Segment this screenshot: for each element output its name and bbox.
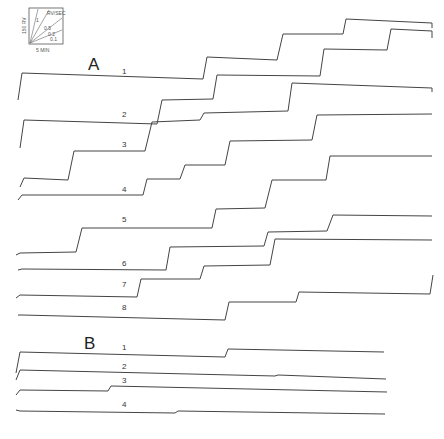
figure-canvas: 150 RV 5 MIN RV/SEC 1 0.5 0.2 0.1 A 1234… [0,0,444,439]
panel-a-trace-8 [18,275,433,320]
panel-b-label: B [84,334,95,353]
panel-a-label: A [88,55,100,74]
panel-a-trace-label: 6 [122,259,127,268]
panel-a-trace-label: 7 [122,280,127,289]
panel-b-trace-2 [16,370,386,380]
rate-unit-label: RV/SEC [47,10,66,16]
panel-a-trace-label: 4 [122,185,127,194]
panel-b-traces: 1234 [16,343,387,414]
panel-a-trace-4 [18,114,432,200]
panel-a-trace-5 [16,156,432,255]
panel-b-trace-label: 1 [122,343,127,352]
panel-a-trace-3 [20,83,432,187]
rate-label-1: 1 [36,17,39,23]
calibration-inset: 150 RV 5 MIN RV/SEC 1 0.5 0.2 0.1 [21,8,66,53]
panel-a-trace-7 [16,239,432,298]
y-scale-label: 150 RV [21,17,27,34]
x-scale-label: 5 MIN [36,47,50,53]
panel-b-trace-label: 4 [122,400,127,409]
panel-a-trace-label: 2 [122,110,127,119]
panel-a-trace-6 [18,215,432,270]
panel-b-trace-label: 2 [122,362,127,371]
panel-a-traces: 12345678 [16,19,433,320]
panel-a-trace-label: 1 [122,67,127,76]
panel-a-trace-label: 8 [122,303,127,312]
rate-label-4: 0.1 [50,36,57,42]
panel-b-trace-3 [16,386,387,395]
panel-b-trace-4 [16,410,385,414]
panel-b-trace-label: 3 [122,376,127,385]
panel-a-trace-2 [20,29,432,148]
panel-a-trace-label: 3 [122,140,127,149]
panel-a-trace-label: 5 [122,215,127,224]
panel-b-trace-1 [16,349,384,373]
panel-a-trace-1 [18,19,432,100]
